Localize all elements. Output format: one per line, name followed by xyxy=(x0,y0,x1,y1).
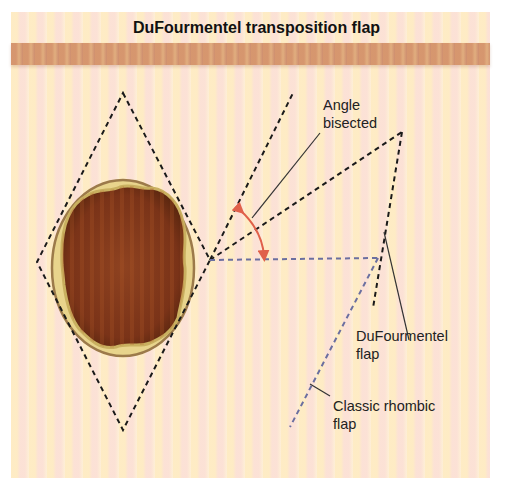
horizontal-extension-line xyxy=(210,258,378,260)
dufourmentel-flap-leader xyxy=(384,232,409,340)
label-dufourmentel-line2: flap xyxy=(356,345,448,363)
label-classic-rhombic-flap: Classic rhombic flap xyxy=(333,397,435,433)
label-classic-line1: Classic rhombic xyxy=(333,397,435,415)
angle-bisected-leader xyxy=(252,133,320,218)
label-angle-line1: Angle xyxy=(323,96,377,114)
flap-diagram xyxy=(0,0,513,495)
label-dufourmentel-line1: DuFourmentel xyxy=(356,327,448,345)
classic-rhombic-leader xyxy=(310,384,330,396)
label-angle-bisected: Angle bisected xyxy=(323,96,377,132)
extension-line xyxy=(210,93,293,260)
wound-defect xyxy=(52,180,194,356)
dufourmentel-flap-line xyxy=(373,132,402,308)
label-angle-line2: bisected xyxy=(323,114,377,132)
label-classic-line2: flap xyxy=(333,415,435,433)
label-dufourmentel-flap: DuFourmentel flap xyxy=(356,327,448,363)
